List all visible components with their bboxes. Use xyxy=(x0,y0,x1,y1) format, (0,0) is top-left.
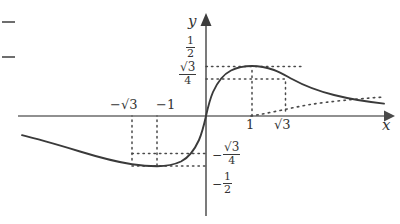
y-tick-half-denominator: 2 xyxy=(186,47,195,60)
page-edge-mark-top xyxy=(2,21,15,23)
x-tick-one: 1 xyxy=(246,118,254,131)
x-tick-neg-one: −1 xyxy=(156,98,175,111)
x-tick-neg-sqrt3: −√3 xyxy=(110,98,137,111)
y-tick-neg-sqrt3over4-fraction: √3 4 xyxy=(223,141,240,166)
y-tick-neg-sqrt3over4-sign: − xyxy=(212,149,223,161)
y-tick-sqrt3over4-fraction: √3 4 xyxy=(179,61,196,86)
y-tick-neg-half-denominator: 2 xyxy=(223,183,232,196)
x-tick-sqrt3: √3 xyxy=(274,118,291,131)
dotted-asymptote-curve xyxy=(251,97,384,116)
graph-canvas xyxy=(0,0,400,224)
x-axis-label: x xyxy=(382,118,390,133)
y-tick-sqrt3over4: √3 4 xyxy=(178,62,196,87)
y-tick-sqrt3over4-numerator: √3 xyxy=(179,61,196,74)
function-graph-figure: y x 1 2 √3 4 − √3 4 − 1 2 −√3 −1 1 √3 xyxy=(0,0,400,224)
y-tick-neg-half: − 1 2 xyxy=(212,172,232,196)
y-tick-sqrt3over4-denominator: 4 xyxy=(179,74,196,87)
y-tick-neg-half-sign: − xyxy=(212,178,223,190)
y-tick-neg-sqrt3over4: − √3 4 xyxy=(212,142,240,167)
y-tick-half: 1 2 xyxy=(185,36,195,60)
y-axis-label: y xyxy=(188,14,196,29)
y-tick-neg-half-fraction: 1 2 xyxy=(223,171,232,195)
y-tick-half-numerator: 1 xyxy=(186,35,195,47)
y-tick-neg-sqrt3over4-denominator: 4 xyxy=(223,154,240,167)
y-tick-half-fraction: 1 2 xyxy=(186,35,195,59)
y-tick-neg-half-numerator: 1 xyxy=(223,171,232,183)
y-axis-arrow xyxy=(201,13,212,26)
page-edge-mark-bottom xyxy=(2,56,15,58)
y-tick-neg-sqrt3over4-numerator: √3 xyxy=(223,141,240,154)
